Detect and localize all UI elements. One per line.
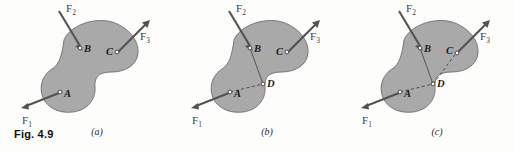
point-label-a-c: A: [403, 88, 411, 99]
force-label-f2-b-sub: 2: [242, 8, 246, 17]
point-label-b-c: B: [423, 43, 431, 54]
point-label-c-a: C: [106, 46, 114, 57]
force-arrowhead-f1-b: [191, 103, 199, 110]
panel-label-c: (c): [431, 126, 443, 138]
rigid-body-shape-c: [381, 21, 478, 113]
point-b-a: [78, 46, 82, 50]
point-label-a-b: A: [233, 88, 241, 99]
point-label-d-c: D: [436, 78, 445, 89]
point-a-c: [398, 90, 402, 94]
panel-c: F2 F3 F1 B C A D (c): [361, 2, 490, 138]
point-label-b-b: B: [253, 43, 261, 54]
point-c-b: [285, 50, 289, 54]
force-label-f3-b-sub: 3: [316, 36, 320, 45]
point-b-c: [418, 46, 422, 50]
point-c-c: [455, 51, 459, 55]
force-label-f3-c: F3: [480, 30, 490, 45]
point-a-a: [58, 90, 62, 94]
panel-label-b: (b): [261, 126, 273, 138]
point-d-b: [261, 82, 265, 86]
point-label-d-b: D: [266, 78, 275, 89]
point-d-c: [431, 82, 435, 86]
point-label-c-b: C: [276, 46, 284, 57]
force-label-f3-a-sub: 3: [146, 36, 150, 45]
force-label-f3-c-sub: 3: [486, 36, 490, 45]
force-label-f2-b: F2: [236, 2, 246, 17]
point-label-a-a: A: [63, 88, 71, 99]
panel-a: F2 F3 F1 B C A (a): [21, 2, 150, 138]
point-label-b-a: B: [83, 43, 91, 54]
figure-caption: Fig. 4.9: [14, 128, 54, 140]
point-c-a: [115, 50, 119, 54]
force-label-f1-c-sub: 1: [368, 120, 372, 129]
force-label-f2-c: F2: [406, 2, 416, 17]
force-label-f2-a: F2: [66, 2, 76, 17]
force-label-f1-c: F1: [362, 114, 372, 129]
panel-b: F2 F3 F1 B C A D (b): [191, 2, 320, 138]
force-arrowhead-f1-a: [21, 103, 29, 110]
figure-svg: F2 F3 F1 B C A (a): [0, 0, 515, 152]
force-arrowhead-f1-c: [361, 103, 369, 110]
force-label-f1-a: F1: [22, 114, 32, 129]
force-label-f1-b: F1: [192, 114, 202, 129]
point-b-b: [248, 46, 252, 50]
force-label-f1-b-sub: 1: [198, 120, 202, 129]
force-label-f2-c-sub: 2: [412, 8, 416, 17]
point-a-b: [228, 90, 232, 94]
rigid-body-shape-a: [41, 21, 138, 113]
force-label-f3-a: F3: [140, 30, 150, 45]
point-label-c-c: C: [446, 45, 454, 56]
force-label-f3-b: F3: [310, 30, 320, 45]
panel-label-a: (a): [91, 126, 103, 138]
rigid-body-shape-b: [211, 21, 308, 113]
figure-container: F2 F3 F1 B C A (a): [0, 0, 515, 152]
force-label-f2-a-sub: 2: [72, 8, 76, 17]
